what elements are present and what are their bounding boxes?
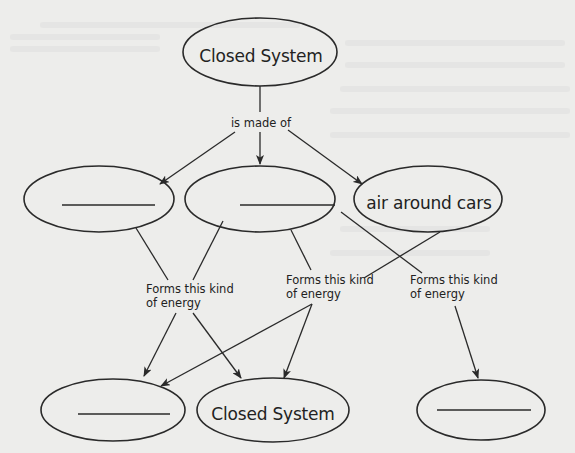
connector-mid-center-to-label2 — [291, 230, 311, 270]
node-bottom-left-ellipse — [41, 379, 185, 441]
edge-label-forms-energy-1-line1: Forms this kind — [146, 282, 234, 296]
connector-mid-left-to-label1 — [136, 228, 168, 280]
edge-label-is-made-of-text: is made of — [231, 116, 291, 130]
edge-label-forms-energy-2-line1: Forms this kind — [286, 273, 374, 287]
edge-label-forms-energy-3-line1: Forms this kind — [410, 273, 498, 287]
arrow-label3-to-bottom-right — [455, 306, 478, 378]
edge-label-forms-energy-3: Forms this kind of energy — [410, 273, 498, 301]
concept-map-canvas: Closed System air around cars Closed Sys… — [0, 0, 575, 453]
arrow-label1-to-bottom-left — [144, 313, 176, 376]
edge-label-forms-energy-2: Forms this kind of energy — [286, 273, 374, 301]
concept-map-graphic — [0, 0, 575, 453]
edge-label-forms-energy-1-line2: of energy — [146, 296, 234, 310]
node-bottom-center-label: Closed System — [211, 404, 334, 424]
edge-label-is-made-of: is made of — [231, 116, 291, 130]
edge-label-forms-energy-3-line2: of energy — [410, 287, 498, 301]
node-mid-left-ellipse — [24, 166, 174, 232]
arrow-label1-to-bottom-center — [193, 313, 241, 378]
arrow-to-mid-right — [288, 130, 362, 184]
connector-mid-center-to-label3 — [341, 212, 422, 273]
edge-label-forms-energy-1: Forms this kind of energy — [146, 282, 234, 310]
node-top-label: Closed System — [199, 46, 322, 66]
arrow-label2-to-bottom-center — [284, 304, 312, 378]
connector-mid-center-to-label1 — [193, 221, 223, 280]
node-mid-center-ellipse — [185, 166, 335, 232]
arrow-label2-to-bottom-left — [161, 304, 312, 386]
arrow-to-mid-left — [160, 132, 235, 184]
edge-label-forms-energy-2-line2: of energy — [286, 287, 374, 301]
node-mid-right-label: air around cars — [366, 193, 491, 213]
connector-mid-right-to-label2 — [364, 232, 440, 278]
